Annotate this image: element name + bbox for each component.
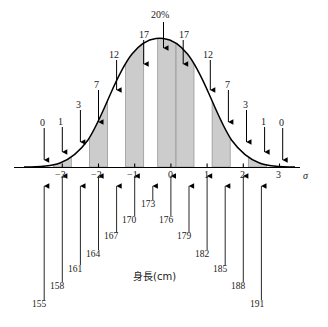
band-pos0p5b <box>176 20 194 167</box>
height-label-155: 155 <box>32 300 46 310</box>
height-label-179: 179 <box>177 232 191 242</box>
x-tick-label-3: 3 <box>276 170 281 180</box>
band-pos2p5 <box>248 20 266 167</box>
x-tick-label-1: 1 <box>204 170 209 180</box>
band-neg0p5 <box>126 20 144 167</box>
percent-label-neg2p5: 1 <box>58 117 63 127</box>
height-label-182: 182 <box>195 250 209 260</box>
height-label-158: 158 <box>50 282 64 292</box>
x-tick-label-neg2: −2 <box>91 170 102 180</box>
percent-label-1p5: 7 <box>225 80 230 90</box>
percent-label-3: 0 <box>279 118 284 128</box>
height-label-188: 188 <box>231 282 245 292</box>
percent-label-2p5: 1 <box>261 117 266 127</box>
height-label-167: 167 <box>104 232 118 242</box>
band-pos1p5 <box>212 20 230 167</box>
percent-label-peak: 20% <box>151 10 169 20</box>
height-label-170: 170 <box>122 216 136 226</box>
percent-label-neg1: 12 <box>109 50 119 60</box>
percent-label-neg0p5: 17 <box>139 30 149 40</box>
x-tick-label-neg1: −1 <box>127 170 138 180</box>
x-tick-label-neg3: −3 <box>55 170 66 180</box>
percent-label-neg2: 3 <box>76 100 81 110</box>
height-label-185: 185 <box>213 265 227 275</box>
height-label-164: 164 <box>86 250 100 260</box>
x-axis-sigma-label: σ <box>303 171 308 181</box>
percent-label-neg1p5: 7 <box>94 80 99 90</box>
height-label-191: 191 <box>250 300 264 310</box>
percent-label-2: 3 <box>243 100 248 110</box>
height-label-173: 173 <box>141 200 155 210</box>
x-tick-label-0: 0 <box>168 170 173 180</box>
height-label-176: 176 <box>159 216 173 226</box>
percent-label-0p5: 17 <box>179 30 189 40</box>
normal-distribution-figure: 0 1 3 7 12 17 20% 17 12 7 3 1 0 −3 −2 −1… <box>0 0 328 327</box>
percent-label-1: 12 <box>203 50 213 60</box>
height-label-161: 161 <box>68 265 82 275</box>
figure-caption: 身長(cm) <box>133 272 176 282</box>
percent-label-neg3: 0 <box>40 118 45 128</box>
x-tick-label-2: 2 <box>240 170 245 180</box>
